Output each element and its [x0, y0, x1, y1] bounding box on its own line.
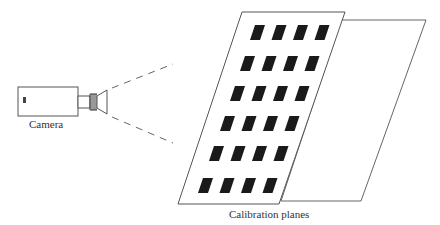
- camera-body: [18, 87, 78, 116]
- camera-icon: [18, 87, 107, 116]
- calibration-planes-label: Calibration planes: [229, 208, 309, 220]
- camera-lens-hood: [97, 90, 107, 114]
- fov-upper-line: [112, 64, 173, 88]
- camera-label: Camera: [29, 118, 63, 130]
- camera-lens-rings: [90, 94, 97, 110]
- fov-lower-line: [112, 117, 173, 143]
- calibration-diagram: [0, 0, 440, 225]
- camera-indicator: [23, 97, 26, 103]
- camera-lens-tube: [78, 96, 90, 108]
